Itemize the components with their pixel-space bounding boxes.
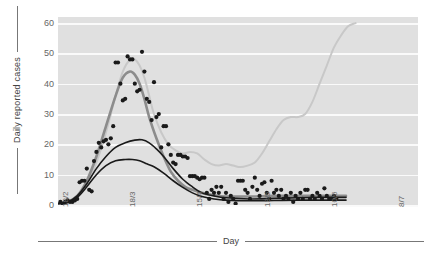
data-point (138, 88, 142, 92)
data-point (106, 142, 110, 146)
y-title-rule-left (17, 148, 18, 194)
data-point (202, 176, 206, 180)
data-point (164, 124, 168, 128)
data-point (85, 167, 89, 171)
data-point (82, 179, 86, 183)
x-title-rule-left (38, 241, 217, 242)
data-point (262, 180, 266, 184)
data-point (212, 191, 216, 195)
plot-area (58, 17, 418, 205)
data-point (207, 197, 211, 201)
data-point (214, 185, 218, 189)
x-tick-label: 18/3 (128, 191, 137, 207)
data-point (140, 50, 144, 54)
y-tick-label: 50 (28, 48, 54, 58)
data-point (142, 69, 146, 73)
data-point (90, 189, 94, 193)
data-point (234, 201, 238, 205)
y-tick-label: 0 (28, 200, 54, 210)
x-title-rule-right (245, 241, 424, 242)
data-point (286, 197, 290, 201)
data-point (157, 112, 161, 116)
y-tick-label: 60 (28, 18, 54, 28)
data-point (109, 136, 113, 140)
data-point (99, 145, 103, 149)
data-point (222, 197, 226, 201)
data-point (133, 82, 137, 86)
data-point (123, 97, 127, 101)
data-point (118, 82, 122, 86)
data-point (248, 197, 252, 201)
data-point (92, 159, 96, 163)
data-point (270, 179, 274, 183)
data-point (306, 188, 310, 192)
y-axis-title: Daily reported cases (8, 6, 26, 194)
data-point (111, 124, 115, 128)
y-axis-title-container: Daily reported cases (8, 17, 26, 205)
data-point (224, 191, 228, 195)
data-point (169, 153, 173, 157)
data-point (97, 141, 101, 145)
data-point (253, 176, 257, 180)
data-point (104, 138, 108, 142)
data-point (246, 191, 250, 195)
y-tick-label: 10 (28, 170, 54, 180)
x-axis-title: Day (38, 234, 424, 248)
data-point (313, 197, 317, 201)
chart-figure: Daily reported cases 0102030405060 18/21… (0, 0, 432, 256)
data-point (116, 60, 120, 64)
data-point (205, 191, 209, 195)
data-point (255, 188, 259, 192)
data-point (130, 57, 134, 61)
x-tick-label: 8/7 (397, 196, 406, 207)
x-axis-tick-labels: 18/218/315/413/510/68/7 (58, 206, 418, 234)
data-point (75, 197, 79, 201)
series-line-model-light-gray (58, 23, 356, 203)
data-point (166, 142, 170, 146)
data-point (147, 100, 151, 104)
data-point (258, 194, 262, 198)
data-point (296, 197, 300, 201)
data-point (279, 188, 283, 192)
data-point (289, 191, 293, 195)
series-line-model-medium-gray (58, 71, 346, 203)
data-point (94, 150, 98, 154)
x-tick-label: 10/6 (330, 191, 339, 207)
data-point (174, 162, 178, 166)
data-point (186, 156, 190, 160)
data-point (152, 80, 156, 84)
chart-canvas (58, 17, 418, 205)
data-point (298, 191, 302, 195)
data-point (277, 194, 281, 198)
data-point (159, 145, 163, 149)
data-point (231, 197, 235, 201)
data-point (274, 188, 278, 192)
y-tick-label: 30 (28, 109, 54, 119)
data-point (320, 197, 324, 201)
data-point (291, 200, 295, 204)
data-point (322, 186, 326, 190)
y-tick-label: 20 (28, 139, 54, 149)
data-point (241, 179, 245, 183)
x-tick-label: 18/2 (61, 191, 70, 207)
x-axis-title-label: Day (217, 236, 245, 246)
data-point (217, 191, 221, 195)
y-axis-tick-labels: 0102030405060 (28, 17, 54, 205)
y-title-rule-right (17, 6, 18, 52)
x-tick-label: 13/5 (263, 191, 272, 207)
y-axis-title-label: Daily reported cases (12, 52, 22, 148)
data-point (226, 200, 230, 204)
data-point (250, 185, 254, 189)
data-point (219, 185, 223, 189)
x-tick-label: 15/4 (195, 191, 204, 207)
data-point (150, 118, 154, 122)
y-tick-label: 40 (28, 79, 54, 89)
data-point (301, 197, 305, 201)
scatter-points (58, 50, 338, 205)
